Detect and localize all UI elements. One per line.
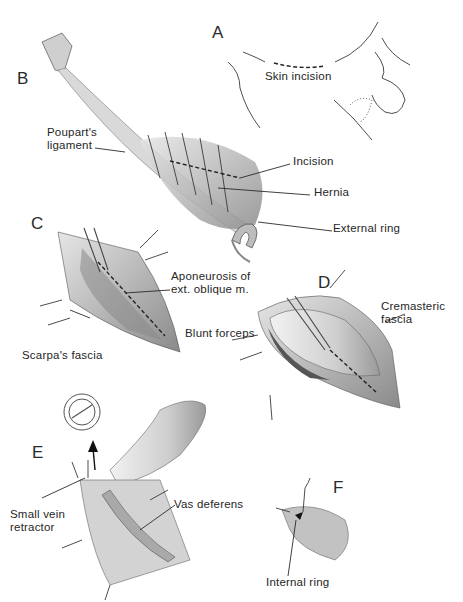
panel-label-e: E: [32, 443, 43, 463]
label-cremasteric-fascia-1: Cremasteric: [381, 300, 445, 313]
label-blunt-forceps: Blunt forceps: [185, 327, 255, 340]
label-aponeurosis-2: ext. oblique m.: [171, 283, 249, 296]
panel-e-drawing: [62, 394, 206, 600]
label-pouparts-ligament-2: ligament: [47, 139, 92, 152]
label-small-vein-retractor-1: Small vein: [10, 508, 65, 521]
label-scarpas-fascia: Scarpa's fascia: [22, 349, 103, 362]
label-hernia: Hernia: [314, 186, 349, 199]
panel-label-d: D: [318, 273, 330, 293]
label-internal-ring: Internal ring: [266, 576, 329, 589]
label-incision: Incision: [293, 155, 334, 168]
panel-label-f: F: [333, 478, 343, 498]
label-external-ring: External ring: [333, 222, 400, 235]
label-vas-deferens: Vas deferens: [174, 498, 243, 511]
label-small-vein-retractor-2: retractor: [10, 521, 55, 534]
label-skin-incision: Skin incision: [265, 70, 332, 83]
panel-c-drawing: [40, 228, 180, 352]
label-cremasteric-fascia-2: fascia: [381, 313, 412, 326]
panel-label-b: B: [17, 69, 28, 89]
panel-label-a: A: [212, 23, 223, 43]
panel-label-c: C: [31, 214, 43, 234]
label-aponeurosis-1: Aponeurosis of: [171, 270, 251, 283]
label-pouparts-ligament-1: Poupart's: [47, 126, 97, 139]
